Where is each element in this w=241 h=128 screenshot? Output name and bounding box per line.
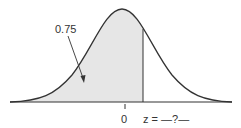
area-label: 0.75 bbox=[55, 23, 76, 35]
zero-tick-label: 0 bbox=[121, 113, 127, 125]
shaded-area bbox=[10, 9, 143, 102]
normal-distribution-diagram: 0.75 0 z = —?— bbox=[0, 0, 241, 128]
z-label: z = —?— bbox=[143, 113, 189, 125]
